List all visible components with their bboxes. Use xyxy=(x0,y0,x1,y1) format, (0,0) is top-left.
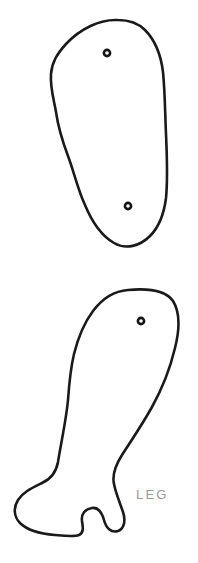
drawing-sheet: LEG xyxy=(0,0,198,563)
part-label-leg: LEG xyxy=(136,488,169,501)
pattern-line-art xyxy=(0,0,198,563)
